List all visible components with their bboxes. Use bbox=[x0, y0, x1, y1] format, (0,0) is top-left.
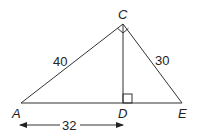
side-ac bbox=[21, 24, 123, 103]
triangle-diagram: C A D E 40 30 32 bbox=[0, 0, 198, 140]
point-label-c: C bbox=[118, 7, 128, 22]
right-angle-mark-d bbox=[123, 94, 132, 103]
segment-label-ac: 40 bbox=[53, 54, 67, 69]
point-label-d: D bbox=[118, 106, 127, 121]
point-label-a: A bbox=[11, 106, 21, 121]
segment-label-ce: 30 bbox=[155, 53, 169, 68]
side-ce bbox=[123, 24, 182, 103]
point-label-e: E bbox=[178, 106, 187, 121]
segment-label-ad: 32 bbox=[62, 118, 76, 133]
